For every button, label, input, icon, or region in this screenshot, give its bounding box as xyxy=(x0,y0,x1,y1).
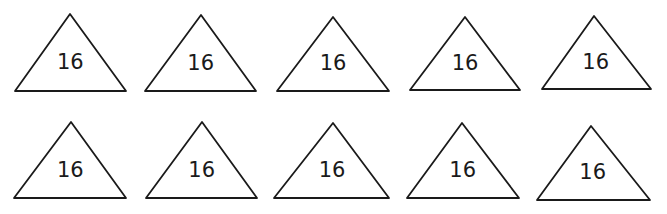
triangle-label: 16 xyxy=(187,51,214,75)
triangle-label: 16 xyxy=(452,51,479,75)
triangle-1-3: 16 xyxy=(277,17,389,91)
triangle-2-2: 16 xyxy=(146,122,257,198)
triangle-label: 16 xyxy=(582,50,609,74)
triangle-2-1: 16 xyxy=(14,122,126,198)
triangle-2-4: 16 xyxy=(407,123,519,198)
triangle-label: 16 xyxy=(319,158,346,182)
triangle-row-2: 1616161616 xyxy=(14,122,650,200)
triangle-2-5: 16 xyxy=(537,126,650,200)
triangle-label: 16 xyxy=(320,51,347,75)
triangle-row-1: 1616161616 xyxy=(15,14,651,91)
triangle-worksheet: 16161616161616161616 xyxy=(0,0,667,214)
triangle-label: 16 xyxy=(188,158,215,182)
triangle-label: 16 xyxy=(579,160,606,184)
triangle-1-2: 16 xyxy=(145,15,256,91)
triangle-label: 16 xyxy=(57,50,84,74)
triangle-1-4: 16 xyxy=(410,17,520,90)
triangle-label: 16 xyxy=(449,158,476,182)
triangle-1-5: 16 xyxy=(542,16,651,89)
triangle-1-1: 16 xyxy=(15,14,126,91)
triangle-label: 16 xyxy=(57,158,84,182)
triangle-2-3: 16 xyxy=(274,123,389,198)
